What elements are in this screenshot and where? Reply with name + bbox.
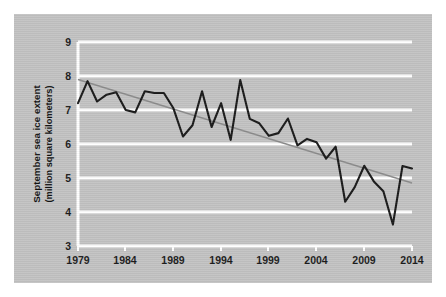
y-tick-label: 7 <box>65 104 71 116</box>
x-tick-label: 2014 <box>400 254 424 266</box>
y-tick-label: 5 <box>65 172 71 184</box>
y-tick-labels: 9 8 7 6 5 4 3 <box>65 36 71 252</box>
trend-line <box>78 79 412 183</box>
chart-panel: 9 8 7 6 5 4 3 1979 1984 1989 1994 1999 2… <box>14 14 432 283</box>
figure: 9 8 7 6 5 4 3 1979 1984 1989 1994 1999 2… <box>0 0 446 297</box>
y-axis-title-main: September sea ice extent <box>31 84 42 202</box>
x-tick-label: 1989 <box>161 254 185 266</box>
y-tick-label: 9 <box>65 36 71 48</box>
x-tick-label: 1984 <box>113 254 137 266</box>
x-tick-labels: 1979 1984 1989 1994 1999 2004 2009 2014 <box>66 254 424 266</box>
y-axis-title: September sea ice extent (million square… <box>31 84 54 202</box>
y-tick-label: 6 <box>65 138 71 150</box>
data-line-september-sea-ice-extent <box>78 80 412 225</box>
y-tick-label: 3 <box>65 240 71 252</box>
x-tick-label: 1999 <box>256 254 280 266</box>
x-tick-label: 2004 <box>304 254 328 266</box>
x-tick-label: 1979 <box>66 254 90 266</box>
x-tick-label: 2009 <box>352 254 376 266</box>
gridlines <box>78 42 412 246</box>
sea-ice-extent-line-chart: 9 8 7 6 5 4 3 1979 1984 1989 1994 1999 2… <box>14 14 432 283</box>
y-axis-title-units: (million square kilometers) <box>44 86 54 203</box>
y-tick-label: 8 <box>65 70 71 82</box>
x-tick-label: 1994 <box>209 254 233 266</box>
y-tick-label: 4 <box>65 206 71 218</box>
